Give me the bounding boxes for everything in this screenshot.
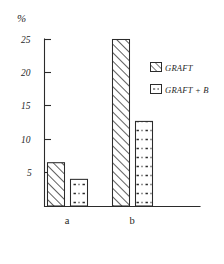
- y-tick-label-10: 10: [21, 135, 31, 145]
- legend-label-graft-b: GRAFT + B: [165, 85, 209, 95]
- y-tick-label-25: 25: [21, 35, 31, 45]
- bar-a-graft-b: [71, 179, 88, 206]
- y-tick-label-15: 15: [21, 101, 31, 111]
- y-axis-unit-label: %: [17, 12, 26, 24]
- x-category-label-b: b: [129, 215, 134, 226]
- y-tick-label-20: 20: [21, 68, 31, 78]
- bar-b-graft: [113, 40, 130, 207]
- dotted-swatch-icon: [151, 85, 162, 94]
- y-tick-label-5: 5: [27, 168, 32, 178]
- x-category-label-a: a: [65, 215, 70, 226]
- legend-entry-graft: GRAFT: [151, 63, 194, 73]
- chart-canvas: % 25 20 15 10 5 a b GR: [0, 0, 224, 264]
- bar-b-graft-b: [136, 121, 153, 206]
- bar-chart-figure: % 25 20 15 10 5 a b GR: [0, 0, 224, 264]
- hatch-swatch-icon: [151, 63, 162, 72]
- legend-label-graft: GRAFT: [165, 63, 194, 73]
- legend-entry-graft-b: GRAFT + B: [151, 85, 210, 95]
- bar-a-graft: [48, 163, 65, 206]
